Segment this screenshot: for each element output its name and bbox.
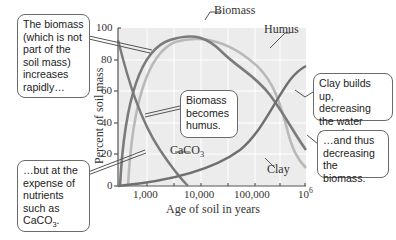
caco3-sub: 3	[200, 150, 204, 159]
callout-becomes-humus: Biomass becomes humus.	[180, 90, 238, 138]
callout-clay-builds: Clay builds up, decreasing the water sup…	[313, 73, 393, 121]
callout-nutrients-text: …but at the expense of nutrients such as…	[23, 164, 78, 226]
x-tick-1e6: 106	[298, 186, 313, 200]
x-tick-100000: 100,000	[234, 188, 270, 200]
series-label-caco3: CaCO3	[170, 143, 204, 159]
y-tick-60: 60	[101, 84, 112, 96]
y-tick-80: 80	[101, 53, 112, 65]
callout-decreasing-biomass: …and thus decreasing the biomass.	[317, 130, 389, 178]
callout-nutrients: …but at the expense of nutrients such as…	[17, 160, 90, 232]
series-label-clay: Clay	[267, 162, 290, 177]
y-tick-0: 0	[107, 179, 113, 191]
callout-biomass-rapid: The biomass (which is not part of the so…	[17, 14, 90, 98]
series-label-humus: Humus	[264, 22, 299, 37]
x-axis-label: Age of soil in years	[166, 202, 260, 217]
callout-nutrients-end: .	[57, 214, 60, 226]
x-tick-10000: 10,000	[184, 188, 214, 200]
x-tick-1e6-exp: 6	[309, 186, 313, 195]
y-tick-20: 20	[101, 147, 112, 159]
x-tick-1e6-base: 10	[298, 188, 309, 200]
series-label-biomass: Biomass	[214, 3, 255, 18]
y-tick-40: 40	[101, 116, 112, 128]
x-tick-1000: 1,000	[133, 188, 158, 200]
y-tick-100: 100	[96, 21, 113, 33]
caco3-base: CaCO	[170, 143, 200, 157]
